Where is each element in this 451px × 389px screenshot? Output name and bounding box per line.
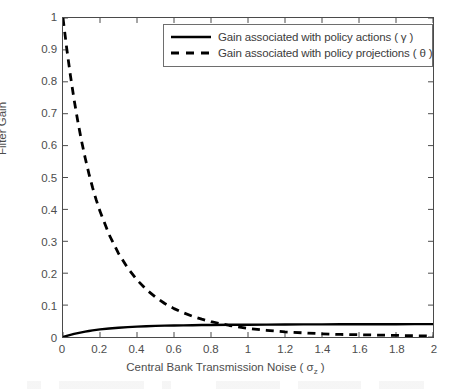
y-tick-label: 0.2: [14, 268, 57, 280]
x-tick-label: 2: [431, 343, 437, 355]
x-tick-label: 0.4: [129, 343, 145, 355]
y-axis-label: Filter Gain: [0, 102, 8, 155]
y-tick-label: 0.9: [14, 43, 57, 55]
y-tick-label: 0.7: [14, 107, 57, 119]
legend-solid-line-icon: [170, 30, 212, 44]
chart-legend: Gain associated with policy actions ( γ …: [163, 24, 433, 67]
x-tick-label: 0: [59, 343, 65, 355]
x-tick-label: 1.4: [315, 343, 331, 355]
y-tick-label: 0.1: [14, 300, 57, 312]
legend-dashed-line-icon: [170, 46, 212, 60]
page-edge-artifact: [0, 381, 451, 389]
y-tick-label: 0.3: [14, 236, 57, 248]
figure-container: Filter Gain 00.10.20.30.40.50.60.70.80.9…: [0, 0, 451, 389]
y-tick-label: 0.5: [14, 172, 57, 184]
y-tick-label: 0: [14, 332, 57, 344]
legend-entry-policy-actions: Gain associated with policy actions ( γ …: [170, 29, 426, 45]
x-tick-label: 0.8: [203, 343, 219, 355]
x-axis-label: Central Bank Transmission Noise ( σz ): [0, 361, 451, 376]
x-axis-label-main: Central Bank Transmission Noise (: [126, 361, 306, 373]
x-tick-label: 1: [245, 343, 251, 355]
x-tick-label: 1.8: [389, 343, 405, 355]
x-tick-label: 0.2: [91, 343, 107, 355]
legend-label-policy-projections: Gain associated with policy projections …: [218, 47, 432, 59]
x-axis-label-close: ): [318, 361, 325, 373]
x-tick-label: 0.6: [166, 343, 182, 355]
sigma-symbol: σ: [307, 361, 314, 373]
x-tick-label: 1.6: [352, 343, 368, 355]
y-tick-label: 0.6: [14, 139, 57, 151]
x-tick-label: 1.2: [277, 343, 293, 355]
y-tick-label: 0.4: [14, 204, 57, 216]
legend-entry-policy-projections: Gain associated with policy projections …: [170, 45, 426, 61]
y-tick-label: 0.8: [14, 75, 57, 87]
y-tick-label: 1: [14, 11, 57, 23]
legend-label-policy-actions: Gain associated with policy actions ( γ …: [218, 31, 413, 43]
